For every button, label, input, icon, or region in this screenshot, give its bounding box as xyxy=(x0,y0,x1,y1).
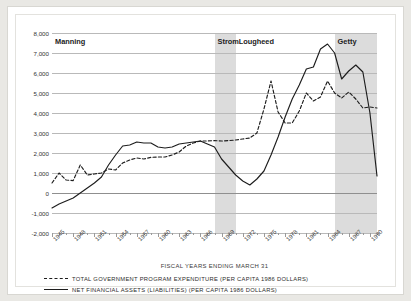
x-axis-tick xyxy=(87,233,88,235)
x-axis-tick xyxy=(109,233,110,235)
x-axis-tick xyxy=(151,233,152,235)
series-line xyxy=(52,44,377,208)
chart-card: 8,0007,0006,0005,0004,0003,0002,0001,000… xyxy=(7,6,404,295)
x-axis-tick xyxy=(363,233,364,235)
y-axis: 8,0007,0006,0005,0004,0003,0002,0001,000… xyxy=(16,33,49,233)
x-axis-tick xyxy=(172,233,173,235)
series-lines xyxy=(52,33,377,233)
x-axis-tick xyxy=(257,233,258,235)
legend-dashed-line-icon xyxy=(44,276,68,282)
legend-item: TOTAL GOVERNMENT PROGRAM EXPENDITURE (PE… xyxy=(44,273,384,284)
y-axis-tick-label: 8,000 xyxy=(34,30,49,37)
plot-wrapper: 8,0007,0006,0005,0004,0003,0002,0001,000… xyxy=(16,15,399,290)
x-axis-tick xyxy=(342,233,343,235)
premier-label-getty: Getty xyxy=(338,37,357,46)
x-axis-tick xyxy=(299,233,300,235)
x-axis-labels: 1945194819511954195719601963196619691972… xyxy=(52,238,392,264)
x-axis-tick xyxy=(193,233,194,235)
y-axis-tick-label: 6,000 xyxy=(34,70,49,77)
x-axis-tick xyxy=(215,233,216,235)
legend-label: TOTAL GOVERNMENT PROGRAM EXPENDITURE (PE… xyxy=(72,276,308,282)
y-axis-tick-label: 7,000 xyxy=(34,50,49,57)
premier-label-strom: Strom xyxy=(218,37,239,46)
premier-label-manning: Manning xyxy=(55,37,85,46)
legend-item: NET FINANCIAL ASSETS (LIABILITIES) (PER … xyxy=(44,284,384,295)
x-axis-tick xyxy=(130,233,131,235)
x-axis-tick xyxy=(66,233,67,235)
y-axis-tick-label: 2,000 xyxy=(34,150,49,157)
x-axis-title: FISCAL YEARS ENDING MARCH 31 xyxy=(52,263,377,269)
y-axis-tick-label: 0 xyxy=(46,190,49,197)
plot-area xyxy=(52,33,377,233)
y-axis-tick-label: -1,000 xyxy=(31,210,49,217)
y-axis-tick-label: 3,000 xyxy=(34,130,49,137)
x-axis-tick xyxy=(236,233,237,235)
series-line xyxy=(52,81,377,183)
y-axis-tick-label: 4,000 xyxy=(34,110,49,117)
premier-label-lougheed: Lougheed xyxy=(239,37,274,46)
y-axis-tick-label: 1,000 xyxy=(34,170,49,177)
legend-solid-line-icon xyxy=(44,287,68,293)
chart-legend: TOTAL GOVERNMENT PROGRAM EXPENDITURE (PE… xyxy=(44,273,384,295)
x-axis-tick xyxy=(320,233,321,235)
legend-label: NET FINANCIAL ASSETS (LIABILITIES) (PER … xyxy=(72,287,277,293)
x-axis-tick xyxy=(278,233,279,235)
y-axis-tick-label: 5,000 xyxy=(34,90,49,97)
chart-inner-frame: 8,0007,0006,0005,0004,0003,0002,0001,000… xyxy=(15,14,396,287)
y-axis-tick-label: -2,000 xyxy=(31,230,49,237)
